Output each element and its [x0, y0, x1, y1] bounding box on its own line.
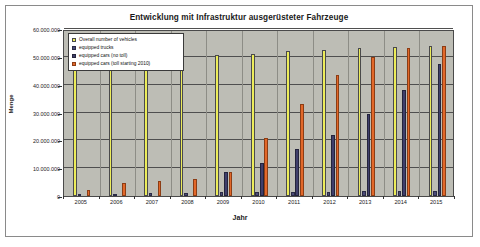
x-axis-separator: [277, 31, 278, 196]
legend-item: equipped trucks: [72, 44, 180, 52]
bar-2009-series-3: [229, 172, 233, 196]
bar-2014-series-2: [402, 90, 406, 196]
bar-2015-series-2: [438, 64, 442, 196]
y-axis-tick-mark: [58, 169, 62, 170]
bar-2007-series-3: [158, 181, 162, 196]
y-axis-tick-label: 60.000.000: [33, 27, 60, 33]
x-axis-tick-mark: [205, 196, 206, 199]
bar-2013-series-0: [358, 48, 362, 196]
bar-2013-series-2: [367, 114, 371, 196]
bar-2012-series-1: [327, 192, 331, 196]
bar-2010-series-2: [260, 163, 264, 196]
x-axis-tick-mark: [383, 196, 384, 199]
legend-item: Overall number of vehicles: [72, 36, 180, 44]
legend-label: equipped cars (toll starting 2010): [79, 60, 150, 68]
y-axis-tick-label: 30.000.000: [33, 111, 60, 117]
gridline: [64, 28, 453, 29]
legend-swatch-icon: [72, 62, 76, 66]
bar-2012-series-0: [322, 50, 326, 196]
x-axis-tick-mark: [99, 196, 100, 199]
y-axis-tick-mark: [58, 58, 62, 59]
y-axis-tick-label: 20.000.000: [33, 138, 60, 144]
y-axis-tick-mark: [58, 30, 62, 31]
bar-2010-series-3: [264, 138, 268, 196]
x-axis-tick-label: 2011: [288, 199, 300, 205]
x-axis-tick-mark: [241, 196, 242, 199]
x-axis-labels: 2005200620072008200920102011201220132014…: [63, 199, 454, 213]
x-axis-tick-label: 2006: [110, 199, 122, 205]
x-axis-tick-mark: [63, 196, 64, 199]
y-axis-tick-label: 40.000.000: [33, 83, 60, 89]
bar-2008-series-3: [193, 179, 197, 196]
x-axis-tick-label: 2010: [252, 199, 264, 205]
bar-2014-series-0: [393, 47, 397, 196]
y-axis-tick-mark: [58, 197, 62, 198]
x-axis-tick-mark: [312, 196, 313, 199]
bar-2014-series-3: [407, 48, 411, 196]
legend-swatch-icon: [72, 38, 76, 42]
legend-label: equipped cars (no toll): [79, 52, 127, 60]
x-axis-tick-label: 2008: [181, 199, 193, 205]
x-axis-tick-label: 2015: [430, 199, 442, 205]
bar-2009-series-0: [215, 55, 219, 196]
x-axis-tick-mark: [134, 196, 135, 199]
bar-2011-series-2: [295, 149, 299, 196]
bar-2015-series-3: [442, 46, 446, 196]
x-axis-separator: [206, 31, 207, 196]
chart-frame: Entwicklung mit Infrastruktur ausgerüste…: [5, 5, 473, 237]
legend-label: Overall number of vehicles: [79, 36, 137, 44]
legend-swatch-icon: [72, 54, 76, 58]
x-axis-title: Jahr: [6, 214, 474, 221]
legend-item: equipped cars (toll starting 2010): [72, 60, 180, 68]
bar-2013-series-1: [362, 191, 366, 196]
x-axis-separator: [348, 31, 349, 196]
bar-2007-series-1: [149, 193, 153, 196]
x-axis-tick-label: 2009: [217, 199, 229, 205]
bar-2015-series-1: [433, 191, 437, 196]
legend-label: equipped trucks: [79, 44, 114, 52]
y-axis-tick-label: 10.000.000: [33, 166, 60, 172]
bar-2010-series-1: [255, 192, 259, 196]
legend-item: equipped cars (no toll): [72, 52, 180, 60]
x-axis-separator: [242, 31, 243, 196]
y-axis-tick-mark: [58, 141, 62, 142]
bar-2012-series-3: [336, 75, 340, 196]
x-axis-tick-mark: [418, 196, 419, 199]
x-axis-separator: [419, 31, 420, 196]
bar-2013-series-3: [371, 57, 375, 196]
bar-2008-series-1: [184, 193, 188, 196]
chart-legend: Overall number of vehiclesequipped truck…: [68, 33, 184, 71]
x-axis-tick-label: 2007: [146, 199, 158, 205]
y-axis-labels: 010.000.00020.000.00030.000.00040.000.00…: [6, 30, 60, 197]
x-axis-separator: [313, 31, 314, 196]
x-axis-tick-mark: [347, 196, 348, 199]
bar-2006-series-3: [122, 183, 126, 196]
x-axis-separator: [384, 31, 385, 196]
chart-title: Entwicklung mit Infrastruktur ausgerüste…: [6, 13, 472, 22]
bar-2009-series-2: [224, 172, 228, 196]
x-axis-tick-mark: [454, 196, 455, 199]
bar-2005-series-3: [87, 190, 91, 196]
x-axis-tick-label: 2013: [359, 199, 371, 205]
bar-2015-series-0: [429, 46, 433, 196]
bar-2012-series-2: [331, 135, 335, 196]
x-axis-tick-mark: [170, 196, 171, 199]
bar-2008-series-0: [180, 57, 184, 196]
bar-2011-series-3: [300, 104, 304, 196]
y-axis-tick-mark: [58, 86, 62, 87]
bar-2010-series-0: [251, 54, 255, 196]
bar-2009-series-1: [220, 192, 224, 196]
y-axis-tick-mark: [58, 114, 62, 115]
bar-2014-series-1: [398, 191, 402, 196]
x-axis-tick-mark: [276, 196, 277, 199]
bar-2011-series-1: [291, 192, 295, 196]
legend-swatch-icon: [72, 46, 76, 50]
y-axis-tick-label: 50.000.000: [33, 55, 60, 61]
bar-2011-series-0: [286, 51, 290, 196]
x-axis-tick-label: 2005: [75, 199, 87, 205]
bar-2005-series-1: [78, 194, 82, 196]
x-axis-tick-label: 2014: [394, 199, 406, 205]
bar-2006-series-1: [113, 194, 117, 197]
x-axis-tick-label: 2012: [323, 199, 335, 205]
